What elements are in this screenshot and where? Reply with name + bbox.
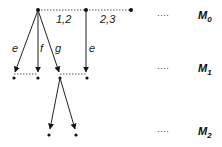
edge-l2-left — [50, 78, 60, 129]
node-l2-2 — [74, 133, 77, 136]
ellipsis-m0: ···· — [157, 10, 169, 20]
edge-l2-right — [60, 78, 75, 129]
node-l1-4 — [85, 76, 88, 79]
label-23: 2,3 — [99, 13, 116, 25]
label-g: g — [55, 42, 62, 54]
label-f: f — [40, 42, 44, 54]
node-l1-2 — [36, 76, 39, 79]
ellipsis-m1: ···· — [157, 63, 169, 73]
node-l1-1 — [12, 76, 15, 79]
ellipsis-m2: ···· — [157, 126, 169, 136]
label-e-left: e — [12, 42, 18, 54]
level-label-m0: M0 — [198, 9, 212, 24]
tree-diagram: e f g e 1,2 2,3 ···· ···· ···· M0 M1 M2 — [0, 0, 222, 147]
label-12: 1,2 — [56, 13, 71, 25]
label-e-right: e — [89, 42, 95, 54]
node-l2-1 — [47, 133, 50, 136]
level-label-m1: M1 — [198, 62, 212, 77]
node-root-c — [129, 8, 133, 12]
edge-e-left — [15, 10, 38, 72]
level-label-m2: M2 — [198, 125, 212, 140]
